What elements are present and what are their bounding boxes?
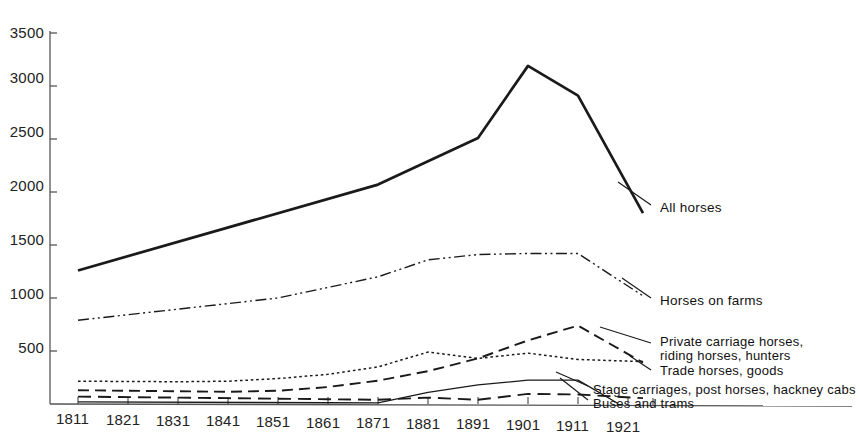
x-tick-label: 1911 bbox=[556, 417, 589, 433]
y-tick-label: 3500 bbox=[0, 24, 44, 41]
series-label-stage-carriages: Stage carriages, post horses, hackney ca… bbox=[593, 382, 856, 397]
x-tick-label: 1871 bbox=[356, 414, 390, 431]
chart-figure: 3500 3000 2500 2000 1500 1000 500 1811 1… bbox=[0, 0, 860, 433]
leader-line-5 bbox=[560, 378, 588, 400]
x-tick-label: 1821 bbox=[106, 411, 140, 428]
series-label-buses-and-trams: Buses and trams bbox=[593, 396, 694, 411]
y-tick-label: 500 bbox=[0, 339, 44, 356]
x-tick-label: 1881 bbox=[406, 415, 440, 432]
leader-line-1 bbox=[622, 278, 651, 298]
series-label-private-carriage-line1: Private carriage horses, bbox=[660, 334, 803, 349]
x-tick-label: 1811 bbox=[56, 410, 89, 427]
series-line-4 bbox=[78, 394, 643, 400]
x-tick-label: 1861 bbox=[306, 414, 340, 431]
series-label-all-horses: All horses bbox=[660, 200, 722, 216]
series-layer bbox=[78, 66, 643, 404]
series-line-1 bbox=[78, 253, 643, 320]
series-line-0 bbox=[78, 66, 643, 271]
leader-line-0 bbox=[618, 182, 651, 205]
y-tick-label: 1500 bbox=[0, 231, 44, 248]
x-tick-label: 1891 bbox=[456, 415, 490, 432]
leader-line-2 bbox=[600, 327, 651, 343]
leader-line-3 bbox=[630, 356, 651, 370]
y-tick-label: 2000 bbox=[0, 177, 44, 194]
x-tick-label: 1921 bbox=[606, 418, 640, 433]
x-tick-label: 1831 bbox=[156, 412, 190, 429]
y-tick-label: 1000 bbox=[0, 285, 44, 302]
x-tick-label: 1901 bbox=[506, 416, 540, 433]
x-tick-label: 1841 bbox=[206, 412, 240, 429]
x-tick-label: 1851 bbox=[256, 413, 290, 430]
y-tick-label: 2500 bbox=[0, 123, 44, 140]
series-line-2 bbox=[78, 326, 643, 392]
series-label-trade-horses: Trade horses, goods bbox=[660, 363, 784, 378]
series-label-horses-on-farms: Horses on farms bbox=[660, 293, 763, 309]
series-line-3 bbox=[78, 352, 643, 382]
y-tick-label: 3000 bbox=[0, 69, 44, 86]
series-label-private-carriage-line2: riding horses, hunters bbox=[660, 348, 791, 363]
